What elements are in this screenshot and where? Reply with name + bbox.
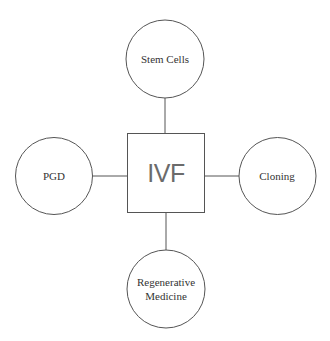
node-label: Stem Cells bbox=[141, 53, 189, 65]
center-label: IVF bbox=[147, 159, 185, 187]
diagram-canvas: IVF Stem Cells PGD Cloning Regenerative … bbox=[0, 0, 330, 341]
node-label-line-2: Medicine bbox=[145, 290, 187, 302]
center-node-ivf: IVF bbox=[128, 134, 205, 213]
node-stem-cells: Stem Cells bbox=[126, 20, 204, 98]
node-regenerative-medicine: Regenerative Medicine bbox=[127, 250, 205, 328]
node-label-line-1: Regenerative bbox=[137, 276, 195, 288]
node-pgd: PGD bbox=[16, 138, 93, 215]
node-label: Cloning bbox=[259, 170, 295, 182]
node-cloning: Cloning bbox=[239, 138, 316, 215]
node-label: PGD bbox=[43, 170, 65, 182]
